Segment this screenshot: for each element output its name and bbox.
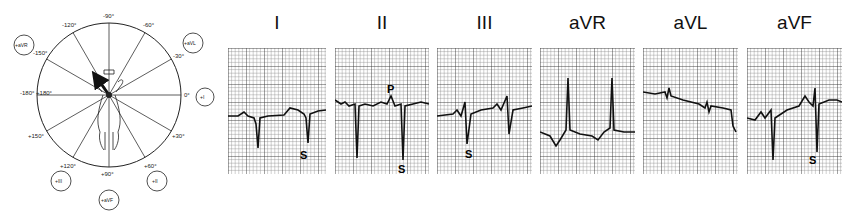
lead-title: I xyxy=(228,12,326,34)
wave-label-s: S xyxy=(465,148,472,160)
ecg-strip: P S xyxy=(335,48,429,174)
lead-title: aVF xyxy=(747,12,842,34)
ecg-strip: S xyxy=(437,48,532,174)
wave-label-s: S xyxy=(809,154,816,166)
lead-panel-iii: III S xyxy=(437,0,532,190)
angle-label-180: -180° +180° xyxy=(20,90,53,96)
lead-badge-avr: +aVR xyxy=(14,35,34,55)
lead-badge-avl: +aVL xyxy=(183,33,203,53)
svg-text:+aVF: +aVF xyxy=(101,197,113,203)
wave-label-s: S xyxy=(398,163,405,174)
svg-text:+I: +I xyxy=(200,94,204,100)
lead-panel-avf: aVF S xyxy=(747,0,842,190)
angle-label-neg150: -150° xyxy=(33,50,48,56)
lead-panel-i: I S xyxy=(228,0,326,190)
wave-label-s: S xyxy=(300,149,307,161)
svg-text:+aVL: +aVL xyxy=(184,40,196,46)
angle-label-neg120: -120° xyxy=(62,22,77,28)
mean-electrical-axis-arrow xyxy=(97,78,109,95)
angle-label-pos30: +30° xyxy=(172,133,185,139)
ecg-strip: S xyxy=(747,48,842,174)
ecg-strip xyxy=(540,48,635,174)
lead-title: III xyxy=(437,12,532,34)
lead-title: aVL xyxy=(643,12,738,34)
lead-title: aVR xyxy=(540,12,635,34)
lead-badge-ii: +II xyxy=(147,171,167,191)
svg-text:+aVR: +aVR xyxy=(15,42,28,48)
ecg-strip xyxy=(643,48,738,174)
lead-badge-i: +I xyxy=(196,88,214,106)
wave-label-p: P xyxy=(387,83,394,95)
angle-label-neg60: -60° xyxy=(143,22,155,28)
lead-badge-avf: +aVF xyxy=(99,190,119,210)
ecg-strip: S xyxy=(228,48,326,174)
angle-label-neg30: -30° xyxy=(173,53,185,59)
angle-label-pos120: +120° xyxy=(60,163,77,169)
svg-text:+II: +II xyxy=(152,178,158,184)
lead-badge-iii: +III xyxy=(51,171,71,191)
lead-title: II xyxy=(335,12,429,34)
lead-panel-ii: II P S xyxy=(335,0,429,190)
hexaxial-diagram: -90° -60° -30° 0° +30° +60° +90° +120° +… xyxy=(0,0,215,215)
svg-text:+III: +III xyxy=(55,178,62,184)
heart-center xyxy=(106,92,112,98)
lead-panel-avl: aVL xyxy=(643,0,738,190)
lead-panel-avr: aVR xyxy=(540,0,635,190)
angle-label-neg90: -90° xyxy=(103,13,115,19)
angle-label-pos60: +60° xyxy=(144,163,157,169)
angle-label-0: 0° xyxy=(184,92,190,98)
angle-label-pos150: +150° xyxy=(28,133,45,139)
angle-label-pos90: +90° xyxy=(101,171,114,177)
